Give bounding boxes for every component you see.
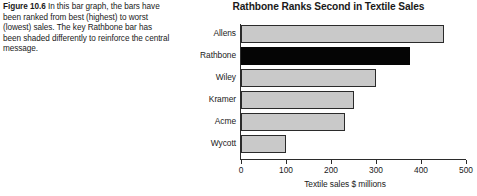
x-tick-200 (331, 160, 332, 164)
bar-rathbone[interactable] (241, 47, 410, 65)
chart-title: Rathbone Ranks Second in Textile Sales (180, 1, 477, 12)
bar-wiley[interactable] (241, 69, 376, 87)
x-tick-label-400: 400 (401, 165, 441, 175)
x-tick-label-0: 0 (221, 165, 261, 175)
bar-row: Acme (180, 113, 477, 131)
bar-row: Wiley (180, 69, 477, 87)
x-axis-line (240, 159, 466, 160)
bar-row: Allens (180, 25, 477, 43)
plot-area: Allens Rathbone Wiley Kramer Acme Wycott (180, 24, 477, 164)
bar-chart: Rathbone Ranks Second in Textile Sales A… (180, 0, 477, 196)
figure-page: Figure 10.6 In this bar graph, the bars … (0, 0, 477, 196)
x-tick-label-500: 500 (446, 165, 477, 175)
bar-allens[interactable] (241, 25, 444, 43)
bar-acme[interactable] (241, 113, 345, 131)
x-tick-500 (466, 160, 467, 164)
x-tick-400 (421, 160, 422, 164)
x-tick-0 (241, 160, 242, 164)
category-label-rathbone: Rathbone (180, 50, 236, 61)
x-tick-label-200: 200 (311, 165, 351, 175)
category-label-wiley: Wiley (180, 72, 236, 83)
category-label-kramer: Kramer (180, 94, 236, 105)
x-axis-title: Textile sales $ millions (220, 179, 470, 189)
x-tick-100 (286, 160, 287, 164)
bar-kramer[interactable] (241, 91, 354, 109)
y-axis-line (240, 24, 241, 160)
category-label-allens: Allens (180, 28, 236, 39)
x-tick-300 (376, 160, 377, 164)
x-tick-label-300: 300 (356, 165, 396, 175)
bar-row: Kramer (180, 91, 477, 109)
bar-wycott[interactable] (241, 135, 286, 153)
figure-caption: Figure 10.6 In this bar graph, the bars … (3, 2, 171, 55)
figure-number: Figure 10.6 (3, 2, 46, 11)
bar-row: Rathbone (180, 47, 477, 65)
bar-row: Wycott (180, 135, 477, 153)
category-label-wycott: Wycott (180, 138, 236, 149)
x-tick-label-100: 100 (266, 165, 306, 175)
category-label-acme: Acme (180, 116, 236, 127)
